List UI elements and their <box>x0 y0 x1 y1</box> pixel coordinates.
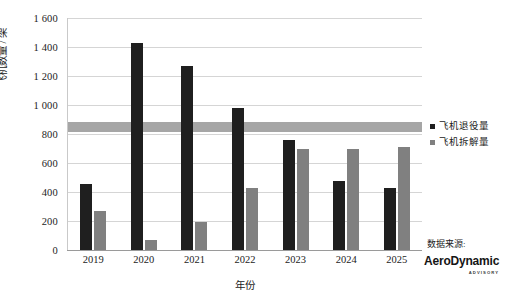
x-axis-line <box>67 250 422 251</box>
logo-main-aero: Aero <box>424 254 451 268</box>
y-axis-tick-label: 800 <box>0 129 58 140</box>
x-axis-tick-label: 2021 <box>184 254 205 265</box>
x-axis-tick-label: 2023 <box>285 254 306 265</box>
bar-retire-2022[interactable] <box>232 108 244 250</box>
gridline <box>68 221 422 222</box>
legend-swatch-dismantle-icon <box>430 140 435 145</box>
y-axis-tick-label: 1 000 <box>0 100 58 111</box>
gridline <box>68 192 422 193</box>
logo-subtitle: ADVISORY <box>424 270 499 275</box>
aerodynamic-advisory-logo: AeroDynamic ADVISORY <box>424 251 499 275</box>
bar-dismantle-2022[interactable] <box>246 188 258 250</box>
logo-main-dynamic: Dynamic <box>451 254 500 268</box>
legend-swatch-retire-icon <box>430 124 435 129</box>
y-axis-tick-label: 1 200 <box>0 71 58 82</box>
y-axis-tick-label: 0 <box>0 245 58 256</box>
legend-label-retire: 飞机退役量 <box>439 122 489 132</box>
gridline <box>68 134 422 135</box>
bar-dismantle-2020[interactable] <box>145 240 157 250</box>
y-axis-tick-label: 400 <box>0 187 58 198</box>
bar-retire-2024[interactable] <box>333 181 345 250</box>
x-axis-tick-label: 2024 <box>336 254 357 265</box>
bar-dismantle-2023[interactable] <box>297 149 309 251</box>
bar-dismantle-2024[interactable] <box>347 149 359 250</box>
y-axis-tick-label: 1 400 <box>0 42 58 53</box>
legend-label-dismantle: 飞机拆解量 <box>439 138 489 148</box>
x-axis-tick-label: 2025 <box>386 254 407 265</box>
gridline <box>68 18 422 19</box>
gridline <box>68 105 422 106</box>
gridline <box>68 76 422 77</box>
bar-dismantle-2025[interactable] <box>398 147 410 250</box>
bar-retire-2019[interactable] <box>80 184 92 250</box>
x-axis-tick-label: 2019 <box>83 254 104 265</box>
y-axis-tick-label: 1 600 <box>0 13 58 24</box>
legend-item-retire[interactable]: 飞机退役量 <box>430 122 489 132</box>
logo-wordmark: AeroDynamic <box>424 251 499 269</box>
bar-retire-2025[interactable] <box>384 188 396 250</box>
x-axis-tick-label: 2022 <box>235 254 256 265</box>
reference-band <box>68 122 422 132</box>
bar-dismantle-2019[interactable] <box>94 211 106 250</box>
y-axis-tick-label: 200 <box>0 216 58 227</box>
legend-item-dismantle[interactable]: 飞机拆解量 <box>430 138 489 148</box>
gridline <box>68 163 422 164</box>
x-axis-title: 年份 <box>235 277 255 292</box>
plot-area <box>68 18 422 250</box>
bar-retire-2023[interactable] <box>283 140 295 250</box>
legend: 飞机退役量 飞机拆解量 <box>430 122 489 153</box>
bar-chart: 飞机数量 / 架 02004006008001 0001 2001 4001 6… <box>0 0 507 303</box>
y-axis-tick-labels: 02004006008001 0001 2001 4001 600 <box>0 0 64 303</box>
x-axis-tick-label: 2020 <box>133 254 154 265</box>
bar-retire-2021[interactable] <box>181 66 193 250</box>
y-axis-tick-label: 600 <box>0 158 58 169</box>
gridline <box>68 47 422 48</box>
bar-retire-2020[interactable] <box>131 43 143 250</box>
bar-dismantle-2021[interactable] <box>195 222 207 250</box>
source-label: 数据来源: <box>427 237 466 250</box>
